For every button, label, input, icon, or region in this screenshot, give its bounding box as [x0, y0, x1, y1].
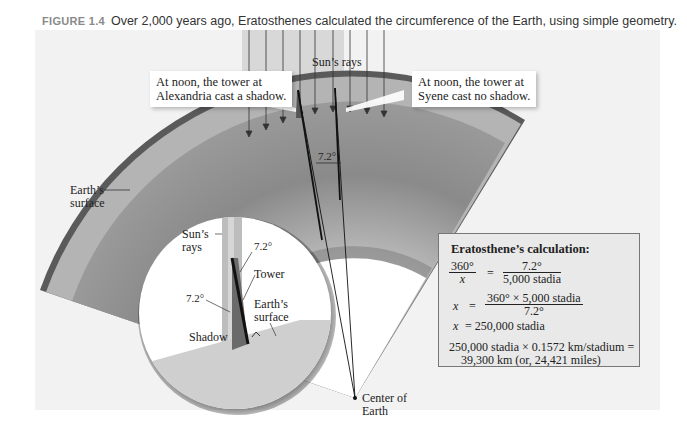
suns-rays-label: Sun’s rays — [312, 56, 362, 69]
earth-surface-line2: surface — [70, 197, 105, 210]
inset-angle-top-label: 7.2° — [254, 240, 272, 253]
eq3-rest: = 250,000 stadia — [465, 319, 545, 334]
eq1-right-fraction: 7.2° 5,000 stadia — [503, 260, 561, 285]
inset-suns-rays-line2: rays — [182, 241, 209, 254]
eq2-equals: = — [469, 299, 476, 314]
calculation-box: Eratosthene’s calculation: 360° x = 7.2°… — [438, 233, 640, 367]
eq3-var: x — [453, 319, 458, 334]
inset-earth-surface-line2: surface — [254, 311, 289, 324]
alexandria-line1: At noon, the tower at — [156, 75, 286, 89]
earth-surface-label: Earth’s surface — [70, 184, 105, 210]
eq2-fraction: 360° × 5,000 stadia 7.2° — [485, 292, 583, 317]
inset-suns-rays-label: Sun’s rays — [182, 228, 209, 254]
inset-earth-surface-label: Earth’s surface — [254, 298, 289, 324]
syene-line2: Syene cast no shadow. — [418, 89, 530, 103]
center-angle-label: 7.2° — [318, 150, 336, 163]
eq1-left-fraction: 360° x — [449, 260, 476, 285]
eq1-left-den: x — [449, 273, 476, 285]
eq1-right-den: 5,000 stadia — [503, 273, 561, 285]
eq2-den: 7.2° — [485, 305, 583, 317]
syene-line1: At noon, the tower at — [418, 75, 530, 89]
inset-tower-label: Tower — [254, 268, 284, 281]
inset-angle-left-label: 7.2° — [186, 292, 204, 305]
inset-shadow-label: Shadow — [189, 331, 228, 344]
syene-callout: At noon, the tower at Syene cast no shad… — [412, 71, 536, 107]
alexandria-line2: Alexandria cast a shadow. — [156, 89, 286, 103]
eq2-var: x — [453, 299, 458, 314]
eq1-equals: = — [487, 266, 494, 281]
calculation-title: Eratosthene’s calculation: — [451, 242, 590, 257]
result-line2: 39,300 km (or, 24,421 miles) — [461, 353, 601, 368]
center-line2: Earth — [362, 405, 407, 418]
alexandria-callout: At noon, the tower at Alexandria cast a … — [150, 71, 292, 107]
center-point — [353, 396, 357, 400]
center-of-earth-label: Center of Earth — [362, 392, 407, 418]
